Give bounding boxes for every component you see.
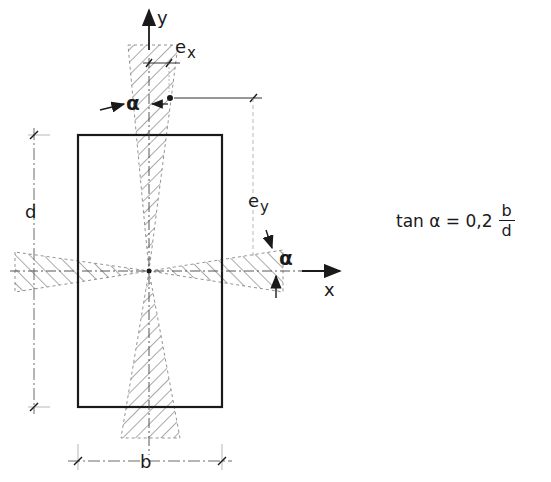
depth-label: d bbox=[25, 201, 36, 222]
x-axis-label: x bbox=[324, 279, 335, 300]
alpha-label-top: α bbox=[126, 91, 140, 115]
cross-section-diagram: y x ex ey α α d b bbox=[0, 0, 551, 482]
alpha-arrow-left bbox=[100, 104, 124, 110]
formula-numerator: b bbox=[499, 203, 515, 221]
tan-alpha-formula: tan α = 0,2 b d bbox=[396, 203, 515, 239]
formula-fraction: b d bbox=[499, 203, 515, 239]
y-axis-label: y bbox=[157, 7, 168, 28]
eccentricity-x-label: ex bbox=[175, 36, 196, 62]
formula-lhs: tan α = 0,2 bbox=[396, 211, 493, 231]
width-label: b bbox=[140, 451, 151, 472]
alpha-label-right: α bbox=[279, 246, 293, 270]
eccentricity-y-label: ey bbox=[248, 190, 269, 216]
alpha-arrow-down bbox=[266, 230, 272, 248]
load-point bbox=[167, 95, 173, 101]
formula-denominator: d bbox=[499, 221, 515, 239]
centroid-point bbox=[147, 269, 152, 274]
